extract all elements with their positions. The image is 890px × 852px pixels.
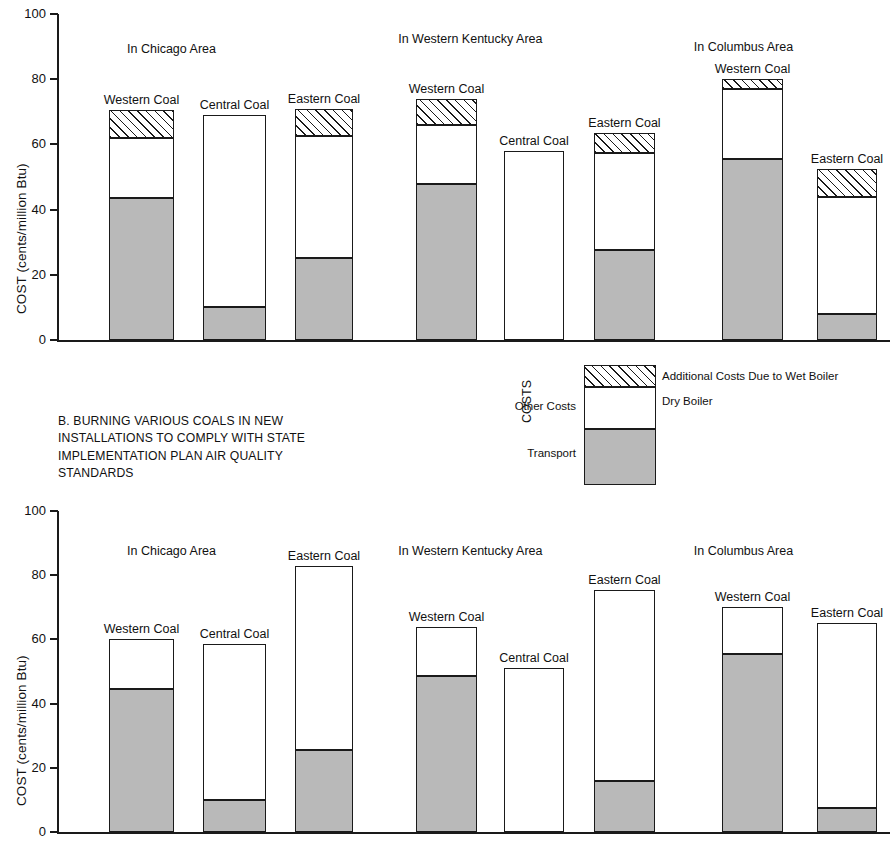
- bar-2-segment-wet-boiler: [295, 109, 353, 137]
- bar-6: [722, 79, 783, 340]
- bar-5-segment-dry-boiler: [594, 590, 655, 781]
- y-axis-tick: [50, 574, 58, 576]
- y-axis-tick: [50, 143, 58, 145]
- group-title-2: In Columbus Area: [694, 40, 793, 54]
- bar-label-2: Eastern Coal: [279, 92, 369, 106]
- bar-label-1: Central Coal: [190, 98, 280, 112]
- caption-line-3: IMPLEMENTATION PLAN AIR QUALITY: [58, 448, 388, 465]
- bar-0-segment-transport: [109, 198, 174, 340]
- bar-7: [817, 623, 877, 832]
- caption-line-4: STANDARDS: [58, 465, 388, 482]
- bar-label-2: Eastern Coal: [279, 549, 369, 563]
- bar-2-segment-dry-boiler: [295, 136, 353, 258]
- y-axis-tick-label-100: 100: [12, 504, 46, 517]
- group-title-0: In Chicago Area: [127, 42, 216, 56]
- bar-label-5: Eastern Coal: [580, 573, 670, 587]
- y-axis-line: [57, 511, 59, 834]
- bar-1: [203, 644, 266, 832]
- group-title-2: In Columbus Area: [694, 544, 793, 558]
- bar-3-segment-transport: [416, 676, 477, 832]
- y-axis-line: [57, 14, 59, 342]
- bar-1-segment-transport: [203, 800, 266, 832]
- legend-label-transport: Transport: [452, 447, 576, 459]
- bar-5-segment-transport: [594, 781, 655, 832]
- caption-line-2: INSTALLATIONS TO COMPLY WITH STATE: [58, 430, 388, 447]
- bar-label-4: Central Coal: [489, 134, 579, 148]
- y-axis-tick: [50, 78, 58, 80]
- bar-6-segment-transport: [722, 159, 783, 340]
- bar-3-segment-transport: [416, 184, 477, 340]
- bar-0-segment-dry-boiler: [109, 138, 174, 198]
- group-title-1: In Western Kentucky Area: [398, 32, 542, 46]
- bar-2: [295, 109, 353, 340]
- bar-2-segment-transport: [295, 750, 353, 832]
- y-axis-tick-label-80: 80: [12, 72, 46, 85]
- y-axis-tick-label-0: 0: [12, 825, 46, 838]
- y-axis-title: COST (cents/million Btu): [14, 163, 29, 314]
- bar-3-segment-wet-boiler: [416, 99, 477, 125]
- bar-0-segment-wet-boiler: [109, 110, 174, 138]
- bar-0: [109, 110, 174, 340]
- bar-5-segment-dry-boiler: [594, 153, 655, 251]
- bar-7: [817, 169, 877, 340]
- bar-0-segment-dry-boiler: [109, 639, 174, 689]
- bar-7-segment-transport: [817, 314, 877, 340]
- bar-3-segment-dry-boiler: [416, 627, 477, 677]
- chart-b-panel: 100806040200COST (cents/million Btu)In C…: [0, 500, 890, 852]
- bar-7-segment-dry-boiler: [817, 197, 877, 314]
- y-axis-tick: [50, 831, 58, 833]
- y-axis-tick-label-100: 100: [12, 7, 46, 20]
- bar-label-0: Western Coal: [97, 93, 187, 107]
- y-axis-tick: [50, 339, 58, 341]
- bar-label-1: Central Coal: [190, 627, 280, 641]
- bar-3-segment-dry-boiler: [416, 125, 477, 184]
- bar-6-segment-dry-boiler: [722, 89, 783, 159]
- bar-0-segment-transport: [109, 689, 174, 832]
- caption-line-1: B. BURNING VARIOUS COALS IN NEW: [58, 413, 388, 430]
- panel-b-caption: B. BURNING VARIOUS COALS IN NEW INSTALLA…: [58, 413, 388, 482]
- bar-3: [416, 627, 477, 832]
- bar-7-segment-transport: [817, 808, 877, 832]
- chart-a-plot-area: 100806040200COST (cents/million Btu)In C…: [0, 0, 890, 355]
- y-axis-tick-label-80: 80: [12, 568, 46, 581]
- bar-2: [295, 566, 353, 832]
- chart-a-panel: 100806040200COST (cents/million Btu)In C…: [0, 0, 890, 355]
- bar-label-6: Western Coal: [708, 62, 798, 76]
- bar-1-segment-transport: [203, 307, 266, 340]
- bar-label-5: Eastern Coal: [580, 116, 670, 130]
- y-axis-tick: [50, 13, 58, 15]
- bar-4: [504, 668, 564, 832]
- bar-0: [109, 639, 174, 832]
- bar-label-3: Western Coal: [402, 82, 492, 96]
- legend-swatch-transport: [584, 429, 656, 485]
- bar-label-7: Eastern Coal: [802, 152, 890, 166]
- bar-label-7: Eastern Coal: [802, 606, 890, 620]
- y-axis-tick-label-60: 60: [12, 632, 46, 645]
- legend: COSTS Additional Costs Due to Wet Boiler…: [0, 355, 890, 500]
- y-axis-tick-label-60: 60: [12, 137, 46, 150]
- bar-2-segment-dry-boiler: [295, 566, 353, 751]
- bar-4-segment-dry-boiler: [504, 668, 564, 832]
- y-axis-tick: [50, 274, 58, 276]
- x-axis-line: [57, 832, 890, 834]
- bar-6-segment-wet-boiler: [722, 79, 783, 89]
- group-title-0: In Chicago Area: [127, 544, 216, 558]
- legend-swatch-wet-boiler: [584, 365, 656, 387]
- legend-label-other-costs: Other Costs: [452, 400, 576, 412]
- y-axis-title: COST (cents/million Btu): [14, 656, 29, 807]
- bar-3: [416, 99, 477, 340]
- bar-2-segment-transport: [295, 258, 353, 340]
- legend-swatch-dry-boiler: [584, 387, 656, 429]
- y-axis-tick: [50, 703, 58, 705]
- bar-label-6: Western Coal: [708, 590, 798, 604]
- bar-1-segment-dry-boiler: [203, 115, 266, 307]
- y-axis-tick: [50, 767, 58, 769]
- y-axis-tick: [50, 638, 58, 640]
- legend-label-wet-boiler: Additional Costs Due to Wet Boiler: [662, 370, 838, 382]
- x-axis-line: [57, 340, 890, 342]
- y-axis-tick: [50, 209, 58, 211]
- bar-label-3: Western Coal: [402, 610, 492, 624]
- legend-label-dry-boiler: Dry Boiler: [662, 395, 712, 407]
- bar-1: [203, 115, 266, 340]
- bar-7-segment-dry-boiler: [817, 623, 877, 808]
